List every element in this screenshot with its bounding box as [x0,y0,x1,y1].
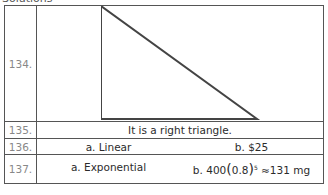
answer-b-prefix: b. 400 [193,164,226,176]
row-number: 135. [5,122,37,139]
table-row: 135. It is a right triangle. [5,122,324,139]
triangle-cell [37,6,324,122]
answer-b: b. 400(0.8)5 ≈131 mg [180,161,323,177]
right-triangle-figure [101,6,261,122]
solutions-table: 134. 135. It is a right triangle. 136. a… [4,5,324,184]
answer-b-exponent: 5 [254,164,258,171]
table-row: 137. a. Exponential b. 400(0.8)5 ≈131 mg [5,155,324,184]
row-number: 134. [5,6,37,122]
row-number: 136. [5,139,37,155]
answer-b-base: 0.8 [232,164,249,176]
row-number: 137. [5,155,37,184]
table-row: 136. a. Linear b. $25 [5,139,324,155]
answer-a: a. Linear [37,141,180,153]
answer-a: a. Exponential [37,161,180,177]
answer-text: It is a right triangle. [37,122,324,139]
answer-cell: a. Exponential b. 400(0.8)5 ≈131 mg [37,155,324,184]
answer-cell: a. Linear b. $25 [37,139,324,155]
answer-b: b. $25 [180,141,323,153]
table-row: 134. [5,6,324,122]
answer-b-result: ≈131 mg [261,164,310,176]
